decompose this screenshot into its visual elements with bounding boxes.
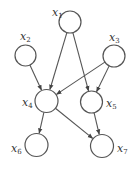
label-x1: x1 xyxy=(52,6,63,20)
label-x3: x3 xyxy=(109,31,120,45)
label-x2: x2 xyxy=(20,30,31,44)
node-x2 xyxy=(15,45,36,66)
edge-x2-to-x4 xyxy=(30,65,42,90)
label-x7: x7 xyxy=(117,142,128,156)
label-x5: x5 xyxy=(106,97,117,111)
label-x4: x4 xyxy=(22,96,33,110)
node-x7 xyxy=(91,135,114,158)
node-x6 xyxy=(25,134,48,157)
label-x6: x6 xyxy=(11,142,22,156)
dag-diagram: x1x2x3x4x5x6x7 xyxy=(0,0,138,169)
edge-x5-to-x7 xyxy=(94,113,99,135)
node-x4 xyxy=(35,90,58,113)
edges-group xyxy=(30,33,109,139)
edge-x4-to-x6 xyxy=(39,112,44,133)
node-x3 xyxy=(103,45,125,67)
node-x5 xyxy=(81,91,103,113)
edge-x4-to-x7 xyxy=(55,108,92,138)
edge-x3-to-x5 xyxy=(97,66,110,92)
edge-x1-to-x4 xyxy=(50,33,67,90)
